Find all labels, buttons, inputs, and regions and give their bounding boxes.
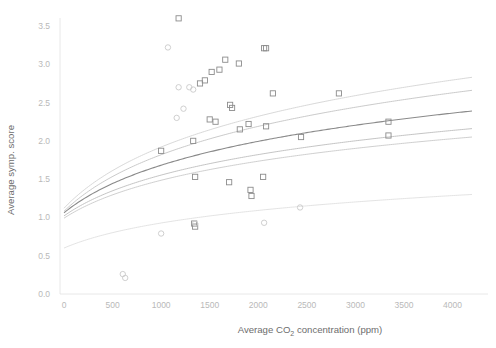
x-tick-label: 1000 <box>152 300 171 310</box>
x-tick-label: 4000 <box>443 300 462 310</box>
y-tick-label: 1.0 <box>38 212 50 222</box>
fit-curve-4 <box>64 129 472 216</box>
data-point-square <box>236 61 241 66</box>
data-point-circle <box>174 115 179 120</box>
data-point-square <box>227 180 232 185</box>
data-point-square <box>207 117 212 122</box>
data-point-square <box>386 119 391 124</box>
data-point-square <box>223 57 228 62</box>
data-point-square <box>263 46 268 51</box>
y-tick-label: 3.0 <box>38 59 50 69</box>
data-point-square <box>193 174 198 179</box>
fit-curve-2 <box>64 90 472 211</box>
data-point-square <box>248 187 253 192</box>
axis-layer <box>60 18 488 294</box>
data-point-square <box>159 148 164 153</box>
data-point-square <box>228 102 233 107</box>
data-point-square <box>213 119 218 124</box>
data-point-square <box>270 91 275 96</box>
x-tick-label: 2000 <box>249 300 268 310</box>
data-point-square <box>229 105 234 110</box>
data-point-square <box>176 16 181 21</box>
data-point-square <box>249 193 254 198</box>
fit-curve-6 <box>64 194 472 248</box>
x-tick-label: 0 <box>62 300 67 310</box>
data-point-square <box>262 46 267 51</box>
x-tick-label: 500 <box>105 300 119 310</box>
data-point-square <box>298 134 303 139</box>
data-point-circle <box>181 106 186 111</box>
x-tick-label: 3500 <box>395 300 414 310</box>
y-tick-label: 0.5 <box>38 251 50 261</box>
y-tick-label: 2.5 <box>38 98 50 108</box>
x-axis-title: Average CO2 concentration (ppm) <box>238 324 383 337</box>
data-point-square <box>209 69 214 74</box>
data-point-circle <box>261 220 266 225</box>
tick-label-layer: 0.00.51.01.52.02.53.03.50500100015002000… <box>38 21 462 310</box>
data-point-circle <box>297 205 302 210</box>
curve-layer <box>64 77 472 248</box>
x-tick-label: 2500 <box>297 300 316 310</box>
y-tick-label: 2.0 <box>38 136 50 146</box>
marker-layer <box>120 16 391 281</box>
data-point-square <box>246 121 251 126</box>
data-point-square <box>191 138 196 143</box>
y-tick-label: 3.5 <box>38 21 50 31</box>
y-tick-label: 0.0 <box>38 289 50 299</box>
y-axis-title: Average symp. score <box>5 125 16 215</box>
data-point-square <box>261 174 266 179</box>
data-point-circle <box>165 45 170 50</box>
y-tick-label: 1.5 <box>38 174 50 184</box>
data-point-square <box>217 67 222 72</box>
chart-canvas: 0.00.51.01.52.02.53.03.50500100015002000… <box>0 0 496 348</box>
scatter-chart: 0.00.51.01.52.02.53.03.50500100015002000… <box>0 0 496 348</box>
data-point-square <box>336 91 341 96</box>
data-point-circle <box>158 231 163 236</box>
x-tick-label: 3000 <box>346 300 365 310</box>
data-point-circle <box>176 85 181 90</box>
fit-curve-3 <box>64 111 472 213</box>
x-tick-label: 1500 <box>200 300 219 310</box>
